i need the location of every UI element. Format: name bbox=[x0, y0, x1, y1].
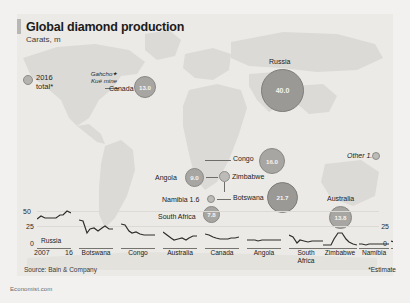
sparkline-zimbabwe[interactable]: Zimbabwe bbox=[323, 206, 357, 248]
annotation-line2: Kué mine bbox=[91, 77, 117, 84]
sparkline-botswana[interactable]: Botswana bbox=[79, 206, 113, 248]
sparkline-caption-namibia: Namibia bbox=[359, 249, 389, 257]
legend-label: 2016 total* bbox=[36, 74, 53, 91]
sparkline-angola[interactable]: Angola bbox=[247, 206, 281, 248]
header: Global diamond production Carats, m bbox=[17, 14, 184, 44]
bubble-angola[interactable]: 9.0 bbox=[185, 168, 204, 187]
sparkline-caption-botswana: Botswana bbox=[79, 249, 113, 257]
sparkline-other[interactable]: Other bbox=[391, 206, 393, 248]
sparkline-caption-russia: Russia bbox=[41, 237, 71, 245]
legend: 2016 total* bbox=[23, 74, 53, 91]
bubble-label-canada: Canada bbox=[109, 85, 134, 93]
annotation-line1: Gahcho✦ bbox=[91, 70, 118, 77]
bubble-russia[interactable]: 40.0 bbox=[261, 69, 304, 112]
xtick-end: 16 bbox=[65, 249, 73, 257]
bubble-label-angola: Angola bbox=[155, 174, 177, 182]
sparkline-caption-australia: Australia bbox=[163, 249, 197, 257]
sparkline-south-africa[interactable]: South Africa bbox=[289, 206, 323, 248]
gahcho-kue-annotation: Gahcho✦ Kué mine bbox=[80, 70, 128, 84]
legend-label-line2: total* bbox=[36, 82, 53, 91]
sparkline-namibia[interactable]: Namibia bbox=[359, 206, 389, 248]
leader-line-zimbabwe bbox=[224, 182, 225, 192]
estimate-note: *Estimate bbox=[368, 266, 396, 273]
bubble-label-zimbabwe: Zimbabwe bbox=[232, 173, 264, 181]
sparkline-congo[interactable]: Congo bbox=[121, 206, 155, 248]
sparkline-caption-other: Other bbox=[391, 249, 393, 257]
sparkline-caption-angola: Angola bbox=[247, 249, 281, 257]
sparkline-australia[interactable]: Australia bbox=[163, 206, 197, 248]
brand-mark: Economist.com bbox=[10, 286, 52, 292]
bubble-swatch-icon bbox=[23, 75, 33, 85]
source-note: Source: Bain & Company bbox=[24, 266, 97, 274]
ytick-0-left: 0 bbox=[30, 240, 34, 248]
sparkline-russia[interactable]: Russia bbox=[37, 206, 71, 248]
timeseries-panel: 50 25 0 25 0 Russia 2007 16 Botswana bbox=[23, 192, 389, 262]
page-subtitle: Carats, m bbox=[26, 35, 184, 44]
bubble-canada[interactable]: 13.0 bbox=[134, 76, 156, 98]
infographic-root: Global diamond production Carats, m 2016… bbox=[0, 0, 410, 303]
bubble-zimbabwe[interactable] bbox=[219, 171, 230, 182]
sparkline-caption-south-africa: South Africa bbox=[289, 249, 323, 264]
ytick-50-left: 50 bbox=[23, 208, 31, 216]
bubble-label-congo: Congo bbox=[233, 155, 254, 163]
sparkline-caption-zimbabwe: Zimbabwe bbox=[323, 249, 357, 257]
leader-line-angola bbox=[206, 177, 218, 178]
xtick-start: 2007 bbox=[34, 249, 50, 257]
bubble-other[interactable] bbox=[372, 152, 380, 160]
ytick-25-left: 25 bbox=[26, 223, 34, 231]
sparkline-caption-congo: Congo bbox=[121, 249, 155, 257]
chart-panel: Global diamond production Carats, m 2016… bbox=[17, 14, 393, 276]
sparkline-canada[interactable]: Canada bbox=[205, 206, 239, 248]
accent-bar bbox=[17, 19, 21, 34]
bubble-label-russia: Russia bbox=[269, 58, 290, 66]
page-title: Global diamond production bbox=[26, 20, 184, 34]
sparkline-caption-canada: Canada bbox=[205, 249, 239, 257]
leader-line-congo bbox=[205, 160, 231, 161]
bubble-congo[interactable]: 16.0 bbox=[259, 148, 285, 174]
